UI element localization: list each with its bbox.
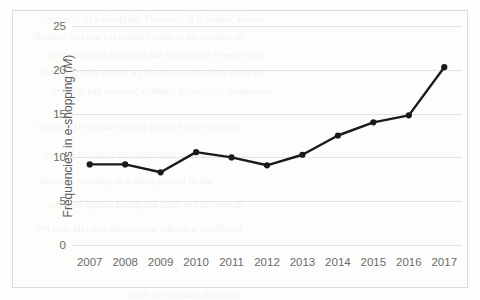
data-point-marker bbox=[335, 132, 341, 138]
data-point-marker bbox=[193, 149, 199, 155]
x-axis-tick-labels: 2007200820092010201120122013201420152016… bbox=[72, 256, 462, 274]
data-point-marker bbox=[228, 154, 234, 160]
x-axis-tick-label: 2009 bbox=[148, 256, 174, 268]
y-axis-tick-label: 5 bbox=[26, 195, 66, 207]
chart-screenshot: nwonk ylediw si ti ,revewoH .gnippohs-e … bbox=[0, 0, 480, 300]
x-axis-tick-label: 2010 bbox=[183, 256, 209, 268]
data-point-marker bbox=[441, 64, 447, 70]
line-series-frequencies bbox=[72, 26, 462, 245]
y-axis-tick-label: 15 bbox=[26, 108, 66, 120]
data-point-marker bbox=[299, 152, 305, 158]
bleed-line: roivaheb remusnoc ni tfihs bbox=[130, 290, 239, 300]
x-axis-tick-label: 2007 bbox=[77, 256, 103, 268]
y-axis-tick-label: 25 bbox=[26, 20, 66, 32]
x-axis-tick-label: 2015 bbox=[361, 256, 387, 268]
x-axis-tick-label: 2012 bbox=[254, 256, 280, 268]
x-axis-tick-label: 2008 bbox=[112, 256, 138, 268]
y-axis-tick-labels: 0510152025 bbox=[22, 26, 66, 245]
x-axis-tick-label: 2017 bbox=[431, 256, 457, 268]
y-axis-tick-label: 10 bbox=[26, 151, 66, 163]
y-axis-tick-label: 20 bbox=[26, 64, 66, 76]
data-point-marker bbox=[158, 169, 164, 175]
data-point-marker bbox=[122, 161, 128, 167]
x-axis-tick-label: 2016 bbox=[396, 256, 422, 268]
x-axis-tick-label: 2014 bbox=[325, 256, 351, 268]
data-point-marker bbox=[370, 119, 376, 125]
series-line bbox=[90, 67, 445, 172]
data-point-marker bbox=[406, 112, 412, 118]
gridline bbox=[72, 245, 462, 246]
x-axis-tick-label: 2013 bbox=[290, 256, 316, 268]
data-point-marker bbox=[87, 161, 93, 167]
plot-area bbox=[72, 26, 462, 245]
data-point-marker bbox=[264, 162, 270, 168]
y-axis-tick-label: 0 bbox=[26, 239, 66, 251]
x-axis-tick-label: 2011 bbox=[219, 256, 244, 268]
